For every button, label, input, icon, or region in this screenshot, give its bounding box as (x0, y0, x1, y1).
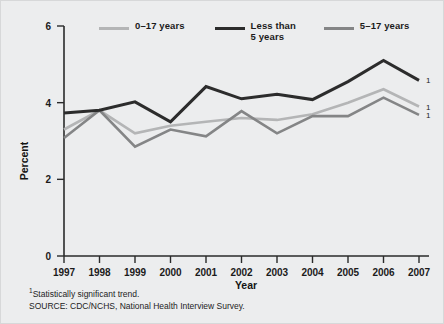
y-tick-label: 0 (45, 251, 51, 262)
endpoint-footnote-marker: 1 (426, 76, 431, 85)
x-tick-label: 2003 (266, 267, 289, 278)
x-tick-label: 2004 (301, 267, 324, 278)
x-tick-label: 1999 (124, 267, 147, 278)
y-tick-label: 4 (45, 98, 51, 109)
x-tick-label: 2007 (408, 267, 431, 278)
x-tick-label: 2005 (337, 267, 360, 278)
y-axis-title: Percent (18, 141, 30, 180)
endpoint-footnote-marker: 1 (426, 111, 431, 120)
x-tick-label: 1997 (53, 267, 76, 278)
x-tick-label: 2000 (159, 267, 182, 278)
y-axis-ticks (57, 26, 64, 256)
x-tick-label: 1998 (88, 267, 111, 278)
y-tick-label: 6 (45, 21, 51, 32)
x-axis-ticks (64, 256, 419, 263)
chart-figure: 0–17 years Less than 5 years 5–17 years … (0, 0, 444, 324)
x-tick-label: 2006 (372, 267, 395, 278)
plot-area: 0246 19971998199920002001200220032004200… (1, 1, 444, 324)
footnote-source: SOURCE: CDC/NCHS, National Health Interv… (29, 301, 429, 313)
x-axis-tick-labels: 1997199819992000200120022003200420052006… (53, 267, 431, 278)
y-axis-tick-labels: 0246 (45, 21, 51, 262)
endpoint-footnote-markers: 111 (426, 76, 431, 120)
y-tick-label: 2 (45, 174, 51, 185)
series-group (64, 61, 419, 147)
footnotes-block: 1Statistically significant trend. SOURCE… (29, 289, 429, 312)
footnote-significance: 1Statistically significant trend. (29, 289, 429, 301)
x-tick-label: 2002 (230, 267, 253, 278)
footnote-significance-text: Statistically significant trend. (33, 289, 140, 299)
x-tick-label: 2001 (195, 267, 218, 278)
line-chart: 0246 19971998199920002001200220032004200… (1, 1, 444, 324)
